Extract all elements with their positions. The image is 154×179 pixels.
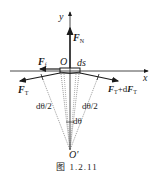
angle-half-right-label: dθ/2: [82, 102, 98, 111]
friction-label: Ff: [38, 57, 47, 68]
radius-right-outer: [70, 77, 98, 150]
tension-left-label: FT: [18, 85, 28, 96]
normal-force-label: FN: [73, 33, 84, 44]
radius-right-inner: [70, 74, 79, 150]
angle-half-left-label: dθ/2: [36, 102, 52, 111]
radius-left-outer: [42, 77, 70, 150]
origin-label: O: [60, 57, 67, 67]
angle-full-label: dθ: [73, 117, 82, 126]
figure-caption: 图 1.2.11: [0, 160, 154, 173]
element-label: ds: [77, 58, 86, 68]
radius-left-inner: [61, 74, 70, 150]
y-axis-label: y: [59, 12, 63, 22]
tension-right-label: FT+dFT: [108, 85, 137, 95]
x-axis-label: x: [143, 73, 147, 83]
center-label: O': [69, 150, 78, 160]
tension-left-arrow: [20, 73, 60, 81]
